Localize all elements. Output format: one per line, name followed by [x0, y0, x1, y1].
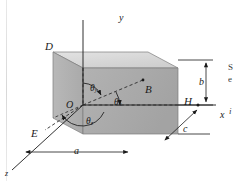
box-solid — [53, 52, 178, 134]
vertex-label-H: H — [184, 96, 192, 107]
dimension-label-b: b — [199, 77, 204, 87]
margin-text-line-2: e — [228, 74, 234, 84]
axis-label-y: y — [119, 13, 123, 23]
vertex-label-E: E — [31, 128, 38, 139]
dimension-label-a: a — [74, 146, 79, 156]
angle-label-theta-y: θy — [90, 84, 97, 94]
margin-text-line-1: S — [228, 62, 234, 72]
angle-label-theta-x: θx — [114, 98, 121, 108]
margin-text-line-3: i — [229, 106, 234, 116]
vertex-label-B: B — [145, 84, 152, 95]
angle-label-theta-z: θz — [86, 117, 93, 127]
axis-label-z: z — [5, 170, 8, 178]
point-H — [197, 104, 200, 107]
box-face-front — [83, 68, 178, 134]
vertex-label-D: D — [45, 41, 53, 52]
box-direction-angle-figure — [0, 0, 234, 181]
axis-label-x: x — [220, 110, 224, 120]
dimension-label-c: c — [183, 124, 187, 134]
axis-line-z — [12, 105, 83, 170]
vertex-label-O: O — [66, 100, 73, 110]
point-B — [142, 79, 145, 82]
